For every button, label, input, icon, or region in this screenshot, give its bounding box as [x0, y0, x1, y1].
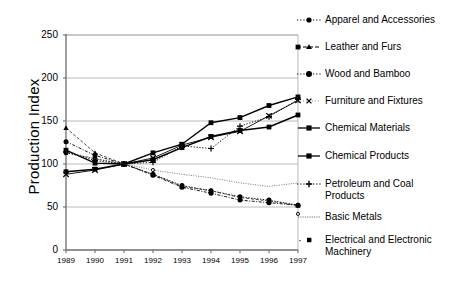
legend-item-wood[interactable]: Wood and Bamboo — [296, 68, 459, 80]
x-tick-1994: 1994 — [196, 256, 226, 265]
legend-item-apparel[interactable]: Apparel and Accessories — [296, 14, 459, 26]
legend-label: Petroleum and Coal Products — [322, 178, 413, 201]
y-tick-150: 150 — [28, 116, 58, 126]
y-tick-100: 100 — [28, 159, 58, 169]
legend-label: Furniture and Fixtures — [322, 95, 423, 107]
legend-label: Chemical Materials — [322, 122, 410, 134]
dashdot-circle-icon — [296, 68, 322, 80]
legend-item-petroleum[interactable]: Petroleum and Coal Products — [296, 178, 459, 201]
x-tick-1995: 1995 — [225, 256, 255, 265]
y-tick-50: 50 — [28, 202, 58, 212]
solid-square-icon — [296, 122, 322, 134]
legend-item-chemical-products[interactable]: Chemical Products — [296, 150, 459, 162]
legend-item-furniture[interactable]: Furniture and Fixtures — [296, 95, 459, 107]
y-tick-0: 0 — [28, 245, 58, 255]
x-tick-1989: 1989 — [51, 256, 81, 265]
fine-dotted-icon — [296, 211, 322, 223]
y-tick-250: 250 — [28, 30, 58, 40]
x-tick-1993: 1993 — [167, 256, 197, 265]
legend-item-leather[interactable]: Leather and Furs — [296, 41, 459, 53]
x-tick-1996: 1996 — [254, 256, 284, 265]
legend-item-electrical[interactable]: Electrical and Electronic Machinery — [296, 234, 459, 257]
legend-label: Apparel and Accessories — [322, 14, 435, 26]
dotted-circle-icon — [296, 14, 322, 26]
chart-figure: Production Index 250 200 150 100 50 0 19… — [0, 0, 459, 294]
legend-label: Basic Metals — [322, 211, 382, 223]
sparse-square-icon — [296, 234, 322, 246]
legend-label: Leather and Furs — [322, 41, 401, 53]
x-tick-1992: 1992 — [138, 256, 168, 265]
dotted-plus-icon — [296, 178, 322, 190]
legend-label: Wood and Bamboo — [322, 68, 410, 80]
legend-label: Chemical Products — [322, 150, 409, 162]
chart-legend: Apparel and Accessories Leather and Furs… — [296, 8, 459, 258]
legend-item-chemical-materials[interactable]: Chemical Materials — [296, 122, 459, 134]
legend-label: Electrical and Electronic Machinery — [322, 234, 432, 257]
legend-item-basic-metals[interactable]: Basic Metals — [296, 211, 459, 223]
solid-square-icon — [296, 150, 322, 162]
dashed-triangle-icon — [296, 41, 322, 53]
x-tick-1991: 1991 — [109, 256, 139, 265]
y-tick-200: 200 — [28, 73, 58, 83]
x-tick-1990: 1990 — [80, 256, 110, 265]
dotted-x-icon — [296, 95, 322, 107]
